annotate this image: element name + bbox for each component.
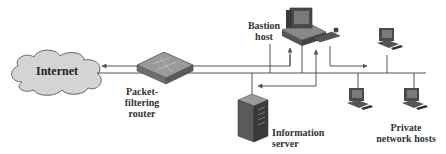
bastion-label: Bastion host bbox=[244, 20, 284, 42]
private-hosts-label: Private network hosts bbox=[366, 122, 446, 144]
private-host-icon-right bbox=[402, 88, 428, 110]
router-label: Packet- filtering router bbox=[122, 86, 162, 119]
private-hosts-label-line2: network hosts bbox=[366, 133, 446, 144]
info-server-label-line1: Information bbox=[272, 127, 324, 138]
bastion-label-line2: host bbox=[244, 31, 284, 42]
router-label-line3: router bbox=[122, 108, 162, 119]
info-server-label: Information server bbox=[272, 127, 324, 149]
bastion-host-icon bbox=[282, 8, 340, 46]
flow-arrow-to-internet bbox=[102, 55, 290, 66]
private-hosts-label-line1: Private bbox=[366, 122, 446, 133]
router-label-line1: Packet- bbox=[122, 86, 162, 97]
router-icon bbox=[137, 52, 193, 84]
flow-arrow-router-to-bastion bbox=[200, 44, 290, 73]
info-server-label-line2: server bbox=[272, 138, 324, 149]
private-host-icon-left bbox=[347, 88, 373, 110]
router-label-line2: filtering bbox=[122, 97, 162, 108]
private-host-icon-top bbox=[377, 28, 403, 50]
information-server-icon bbox=[238, 94, 268, 142]
bastion-label-line1: Bastion bbox=[244, 20, 284, 31]
internet-label: Internet bbox=[36, 66, 78, 77]
